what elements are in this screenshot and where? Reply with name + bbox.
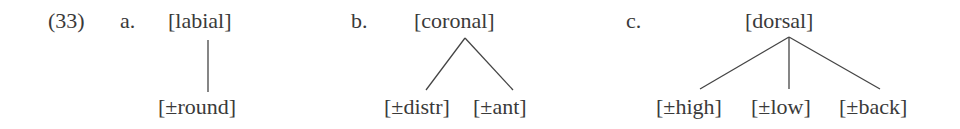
branch-coronal-distr: [426, 38, 465, 90]
tree-branches: [0, 0, 960, 129]
branch-dorsal-back: [789, 37, 880, 89]
branch-dorsal-high: [700, 37, 789, 89]
branch-coronal-ant: [465, 38, 513, 90]
